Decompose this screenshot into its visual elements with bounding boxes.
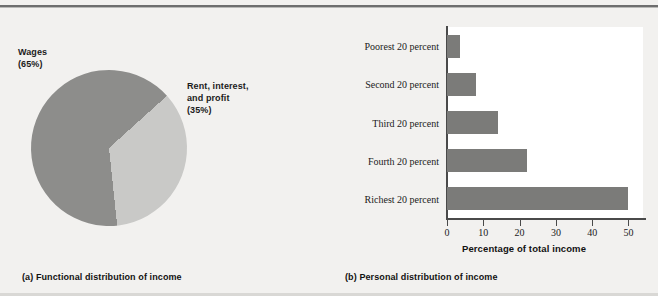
x-tick-50	[628, 220, 629, 226]
x-tick-20	[520, 220, 521, 226]
x-tick-label-40: 40	[587, 227, 597, 238]
pie-slice-label-wages: Wages (65%)	[18, 46, 47, 70]
x-tick-label-20: 20	[515, 227, 525, 238]
caption-panel-a: (a) Functional distribution of income	[22, 272, 182, 282]
panel-a-pie-chart: Wages (65%) Rent, interest, and profit (…	[0, 8, 330, 296]
figure-panel-pair: Wages (65%) Rent, interest, and profit (…	[0, 0, 658, 296]
bar-second-20-percent	[447, 73, 476, 96]
pie-slice-label-rent: Rent, interest, and profit (35%)	[187, 80, 249, 116]
x-axis-title: Percentage of total income	[462, 243, 586, 254]
pie-slice-label-wages-value: (65%)	[18, 58, 47, 70]
category-label-second-20-percent: Second 20 percent	[365, 79, 439, 90]
x-tick-0	[447, 220, 448, 226]
pie-slice-label-rent-line1: Rent, interest,	[187, 80, 249, 92]
x-tick-label-50: 50	[623, 227, 633, 238]
category-label-fourth-20-percent: Fourth 20 percent	[368, 155, 439, 166]
panel-b-bar-chart: 01020304050 Poorest 20 percentSecond 20 …	[330, 8, 658, 296]
pie-chart-graphic	[26, 65, 193, 232]
x-tick-label-0: 0	[445, 227, 450, 238]
x-tick-label-30: 30	[551, 227, 561, 238]
x-tick-10	[483, 220, 484, 226]
pie-slice-label-rent-value: (35%)	[187, 104, 249, 116]
pie-slice-label-rent-line2: and profit	[187, 92, 249, 104]
category-label-richest-20-percent: Richest 20 percent	[365, 193, 439, 204]
category-label-third-20-percent: Third 20 percent	[372, 117, 439, 128]
bar-poorest-20-percent	[447, 35, 460, 58]
x-axis-line	[446, 218, 646, 220]
x-tick-label-10: 10	[478, 227, 488, 238]
pie-slice-label-wages-name: Wages	[18, 46, 47, 58]
x-tick-30	[556, 220, 557, 226]
category-label-poorest-20-percent: Poorest 20 percent	[365, 41, 439, 52]
bar-fourth-20-percent	[447, 149, 527, 172]
x-tick-40	[592, 220, 593, 226]
caption-panel-b: (b) Personal distribution of income	[345, 272, 498, 282]
bar-richest-20-percent	[447, 187, 628, 210]
bar-third-20-percent	[447, 111, 498, 134]
